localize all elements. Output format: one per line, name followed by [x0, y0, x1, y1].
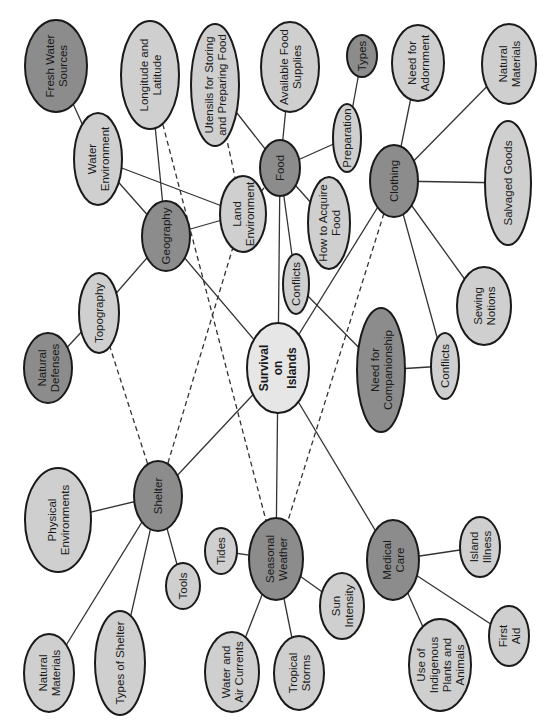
- node-label-line: Physical: [46, 499, 58, 542]
- node-label-line: Adornment: [419, 34, 431, 91]
- node-label: TropicalStorms: [287, 653, 312, 693]
- node-label: Clothing: [388, 160, 400, 202]
- node-label: Topography: [93, 283, 105, 343]
- node-label-line: Natural: [497, 45, 509, 82]
- node-tools: Tools: [166, 563, 200, 609]
- node-label-line: Available Food: [278, 29, 290, 105]
- node-label-line: How to Acquire: [317, 184, 329, 261]
- node-land-environment: LandEnvironment: [220, 176, 266, 252]
- node-label: IslandIllness: [468, 530, 493, 563]
- node-label-line: Salvaged Goods: [502, 140, 514, 225]
- node-survival: SurvivalonIslands: [247, 323, 309, 413]
- node-label-line: Utensils for Storing: [203, 36, 215, 133]
- node-label-line: Storms: [300, 655, 312, 692]
- node-label: SewingNotions: [472, 286, 497, 325]
- node-salvaged-goods: Salvaged Goods: [485, 121, 531, 245]
- node-label-line: Environments: [59, 485, 71, 556]
- node-label-line: Animals: [454, 644, 466, 685]
- node-label-line: Intensity: [343, 584, 355, 627]
- node-label-line: Preparation: [341, 108, 353, 167]
- node-label: Shelter: [152, 478, 164, 515]
- node-label-line: Fresh Water: [44, 34, 56, 97]
- concept-map: SurvivalonIslandsGeographyFoodClothingSh…: [0, 0, 547, 728]
- node-label-line: Air Currents: [233, 641, 245, 703]
- node-label-line: Use of: [415, 648, 427, 682]
- node-label-line: Plants and: [441, 638, 453, 692]
- node-label: Utensils for Storingand Preparing Food: [203, 34, 228, 136]
- node-label: Geography: [160, 207, 172, 264]
- node-label: Salvaged Goods: [502, 140, 514, 225]
- node-label-line: Indigenous: [428, 637, 440, 694]
- node-label-line: Materials: [50, 649, 62, 696]
- node-label-line: Illness: [481, 530, 493, 563]
- node-label-line: Water: [86, 144, 98, 174]
- node-natural-defenses: NaturalDefenses: [24, 333, 72, 403]
- node-label: SeasonalWeather: [264, 535, 289, 583]
- node-label-line: Topography: [93, 283, 105, 343]
- node-tides: Tides: [205, 528, 237, 574]
- node-label-line: First: [497, 624, 509, 647]
- node-label-line: Longitude and: [138, 39, 150, 112]
- node-preparation: Preparation: [333, 104, 361, 172]
- node-label-line: Defenses: [49, 343, 61, 392]
- node-label: Need forAdornment: [406, 34, 431, 91]
- node-island-illness: IslandIllness: [460, 517, 500, 577]
- node-label: Water andAir Currents: [220, 641, 245, 703]
- node-label-line: Medical: [381, 540, 393, 580]
- node-longitude-latitude: Longitude andLatitude: [121, 21, 179, 129]
- node-label: NaturalMaterials: [37, 649, 62, 696]
- node-label-line: Natural: [37, 654, 49, 691]
- node-label: Types: [356, 40, 368, 71]
- node-label: Tides: [215, 537, 227, 565]
- node-seasonal-weather: SeasonalWeather: [249, 518, 303, 600]
- node-label: Conflicts: [290, 262, 302, 306]
- node-clothing: Clothing: [370, 145, 418, 217]
- node-water-environment: WaterEnvironment: [74, 113, 122, 205]
- node-label-line: Need for: [369, 348, 381, 392]
- node-label: Tools: [177, 572, 189, 599]
- node-label: Preparation: [341, 108, 353, 167]
- node-physical-environments: PhysicalEnvironments: [25, 468, 91, 572]
- node-fresh-water-sources: Fresh WaterSources: [25, 20, 87, 112]
- node-water-air-currents: Water andAir Currents: [205, 632, 259, 712]
- node-label-line: Types of Shelter: [114, 621, 126, 704]
- node-natural-materials-clothing: NaturalMaterials: [482, 24, 536, 104]
- node-how-to-acquire-food: How to AcquireFood: [308, 177, 350, 269]
- node-label-line: Clothing: [388, 160, 400, 202]
- node-shelter: Shelter: [134, 461, 182, 531]
- node-label: Food: [274, 155, 286, 181]
- node-first-aid: FirstAid: [489, 606, 529, 666]
- node-label-line: Food: [274, 155, 286, 181]
- node-need-for-adornment: Need forAdornment: [392, 25, 444, 101]
- node-sewing-notions: SewingNotions: [457, 267, 511, 345]
- node-medical-care: MedicalCare: [367, 520, 419, 600]
- node-conflicts-companionship: Conflicts: [431, 333, 459, 399]
- node-label-line: Island: [468, 532, 480, 563]
- node-label-line: Food: [330, 210, 342, 236]
- node-label-line: Notions: [485, 286, 497, 325]
- node-label: Types of Shelter: [114, 621, 126, 704]
- node-label-line: Sewing: [472, 287, 484, 325]
- node-label-line: Environment: [99, 126, 111, 191]
- node-label-line: Natural: [36, 349, 48, 386]
- node-label-line: Land: [231, 201, 243, 227]
- node-label-line: Care: [394, 548, 406, 573]
- node-label-line: Aid: [510, 628, 522, 645]
- node-label: Conflicts: [439, 344, 451, 388]
- node-label-line: Water and: [220, 646, 232, 699]
- node-topography: Topography: [79, 273, 119, 353]
- node-layer: SurvivalonIslandsGeographyFoodClothingSh…: [24, 20, 536, 715]
- node-label-line: Shelter: [152, 478, 164, 515]
- node-label-line: Conflicts: [290, 262, 302, 306]
- node-label-line: Supplies: [291, 45, 303, 89]
- node-geography: Geography: [142, 201, 190, 271]
- node-label-line: Islands: [285, 347, 299, 389]
- node-label-line: on: [271, 361, 285, 376]
- node-sun-intensity: SunIntensity: [320, 573, 364, 639]
- node-label-line: Survival: [257, 345, 271, 392]
- node-label-line: Environment: [244, 181, 256, 246]
- node-tropical-storms: TropicalStorms: [274, 636, 324, 710]
- node-label-line: Materials: [510, 40, 522, 87]
- node-label-line: Geography: [160, 207, 172, 264]
- node-label-line: Latitude: [151, 55, 163, 96]
